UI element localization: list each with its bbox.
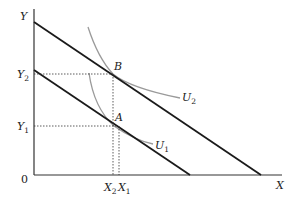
- x-axis-label: X: [275, 179, 285, 192]
- y-axis-label: Y: [20, 10, 29, 23]
- u2-label: U2: [182, 91, 196, 106]
- u1-label: U1: [155, 139, 169, 154]
- indifference-curve-diagram: Y X 0 Y2 Y1 X2 X1 B A U2 U1: [0, 0, 297, 200]
- budget-line-shifted: [34, 70, 190, 175]
- indifference-curve-u1: [89, 73, 153, 144]
- x2-label: X2: [103, 181, 117, 196]
- x1-label: X1: [117, 181, 131, 196]
- y2-label: Y2: [17, 68, 29, 83]
- point-a-label: A: [114, 111, 123, 124]
- indifference-curve-u2: [88, 27, 180, 98]
- origin-label: 0: [21, 173, 28, 186]
- y1-label: Y1: [17, 120, 29, 135]
- diagram-canvas: Y X 0 Y2 Y1 X2 X1 B A U2 U1: [0, 0, 297, 200]
- point-b-label: B: [113, 60, 122, 73]
- budget-line-original: [34, 22, 261, 175]
